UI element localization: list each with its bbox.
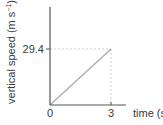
y-tick-label: 29.4 bbox=[23, 43, 44, 55]
y-axis-label-text: vertical speed (m s bbox=[5, 12, 17, 104]
data-series-line bbox=[50, 49, 111, 105]
y-axis-label-suffix: ) bbox=[5, 0, 17, 4]
x-tick-label-0: 0 bbox=[47, 107, 53, 119]
y-axis-label-exponent: −1 bbox=[5, 4, 12, 12]
x-tick-label-3: 3 bbox=[108, 107, 114, 119]
velocity-time-chart: vertical speed (m s−1) 29.4 0 3 time (s bbox=[0, 0, 163, 125]
x-axis-label: time (s bbox=[133, 107, 163, 119]
y-axis-label: vertical speed (m s−1) bbox=[5, 0, 17, 104]
